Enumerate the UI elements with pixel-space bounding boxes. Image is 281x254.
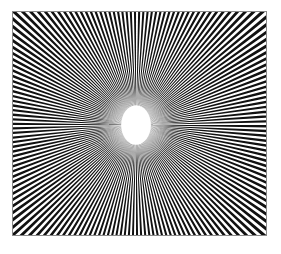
siemens-star-frame xyxy=(12,11,267,236)
center-white-ellipse xyxy=(121,105,151,145)
siemens-star-pattern xyxy=(13,12,266,235)
